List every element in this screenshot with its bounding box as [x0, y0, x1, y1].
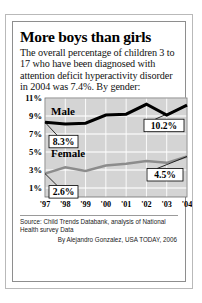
chart-canvas: 1%3%5%7%9%11%'97'98'99'00'01'02'03'04Mal…	[20, 95, 192, 213]
x-axis-tick-label: '97	[40, 200, 50, 209]
series-label-male: Male	[51, 105, 75, 117]
callout-male-start-value: 8.3%	[53, 136, 75, 147]
y-axis-tick-label: 9%	[29, 111, 42, 121]
x-axis-tick-label: '03	[161, 200, 171, 209]
adhd-line-chart: 1%3%5%7%9%11%'97'98'99'00'01'02'03'04Mal…	[20, 95, 192, 213]
source-note: Source: Child Trends Databank, analysis …	[20, 218, 178, 233]
x-axis-tick-label: '02	[141, 200, 151, 209]
x-axis-tick-label: '99	[80, 200, 90, 209]
y-axis-tick-label: 3%	[29, 165, 42, 175]
page-title: More boys than girls	[20, 28, 178, 45]
infographic-outer-border: More boys than girls The overall percent…	[5, 14, 193, 289]
callout-female-end-value: 4.5%	[154, 169, 176, 180]
y-axis-tick-label: 5%	[29, 147, 42, 157]
byline-credit: By Alejandro Gonzalez, USA TODAY, 2006	[20, 236, 178, 243]
x-axis-tick-label: '01	[121, 200, 131, 209]
infographic-inner-border: More boys than girls The overall percent…	[12, 21, 186, 282]
series-label-female: Female	[51, 147, 85, 159]
x-axis-tick-label: '00	[101, 200, 111, 209]
y-axis-tick-label: 7%	[29, 129, 42, 139]
chart-footer-divider	[20, 215, 178, 216]
subtitle-text: The overall percentage of children 3 to …	[20, 47, 178, 92]
y-axis-tick-label: 1%	[29, 183, 42, 193]
x-axis-tick-label: '04	[182, 200, 192, 209]
callout-male-end-value: 10.2%	[151, 120, 177, 131]
callout-female-start-value: 2.6%	[53, 186, 75, 197]
x-axis-tick-label: '98	[60, 200, 70, 209]
y-axis-tick-label: 11%	[25, 95, 42, 103]
